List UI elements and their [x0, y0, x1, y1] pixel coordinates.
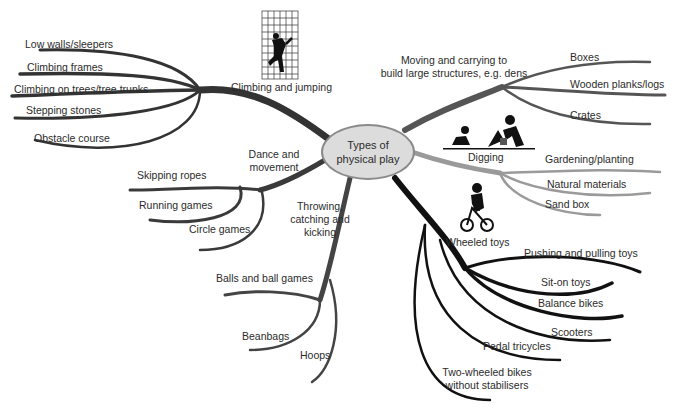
central-topic-label: Types of physical play: [329, 138, 407, 166]
branch-label-dance: Dance and movement: [234, 148, 314, 174]
branch-label-line: Moving and carrying to: [374, 54, 534, 67]
branch-label-throwing: Throwing, catching and kicking: [280, 200, 360, 239]
leaf-stepping-stones: Stepping stones: [26, 104, 101, 117]
leaf-two-wheeled-bikes: Two-wheeled bikes without stabilisers: [432, 366, 542, 392]
leaf-pushing-pulling: Pushing and pulling toys: [524, 247, 638, 260]
leaf-wooden-planks: Wooden planks/logs: [570, 78, 664, 91]
leaf-hoops: Hoops: [300, 349, 330, 362]
leaf-natural-materials: Natural materials: [547, 178, 626, 191]
digging-icon: [443, 115, 535, 150]
leaf-crates: Crates: [570, 109, 601, 122]
branch-label-line: Dance and: [234, 148, 314, 161]
leaf-boxes: Boxes: [570, 51, 599, 64]
branch-label-digging: Digging: [468, 151, 504, 164]
central-topic-node: Types of physical play: [321, 124, 415, 180]
leaf-balance-bikes: Balance bikes: [538, 297, 603, 310]
branch-label-line: kicking: [280, 226, 360, 239]
leaf-circle-games: Circle games: [189, 223, 250, 236]
branch-label-climbing: Climbing and jumping: [231, 81, 332, 94]
leaf-skipping-ropes: Skipping ropes: [137, 169, 206, 182]
branch-label-line: movement: [234, 161, 314, 174]
leaf-low-walls: Low walls/sleepers: [25, 38, 113, 51]
branch-label-line: catching and: [280, 213, 360, 226]
leaf-obstacle-course: Obstacle course: [34, 132, 110, 145]
branch-label-line: Throwing,: [280, 200, 360, 213]
leaf-label-line: without stabilisers: [432, 379, 542, 392]
leaf-pedal-tricycles: Pedal tricycles: [483, 340, 551, 353]
leaf-climbing-frames: Climbing frames: [27, 61, 103, 74]
branch-label-line: build large structures, e.g. dens: [374, 67, 534, 80]
climbing-wall-icon: [262, 11, 298, 79]
leaf-label-line: Two-wheeled bikes: [432, 366, 542, 379]
leaf-running-games: Running games: [139, 199, 213, 212]
leaf-scooters: Scooters: [551, 326, 592, 339]
leaf-balls: Balls and ball games: [216, 272, 313, 285]
leaf-sit-on-toys: Sit-on toys: [541, 276, 591, 289]
leaf-sand-box: Sand box: [545, 198, 589, 211]
leaf-climbing-trees: Climbing on trees/tree trunks: [14, 83, 148, 96]
bicycle-icon: [461, 183, 493, 231]
leaf-gardening: Gardening/planting: [545, 153, 634, 166]
leaf-beanbags: Beanbags: [242, 330, 289, 343]
branch-label-wheeled: Wheeled toys: [446, 236, 510, 249]
branch-label-moving-carrying: Moving and carrying to build large struc…: [374, 54, 534, 80]
